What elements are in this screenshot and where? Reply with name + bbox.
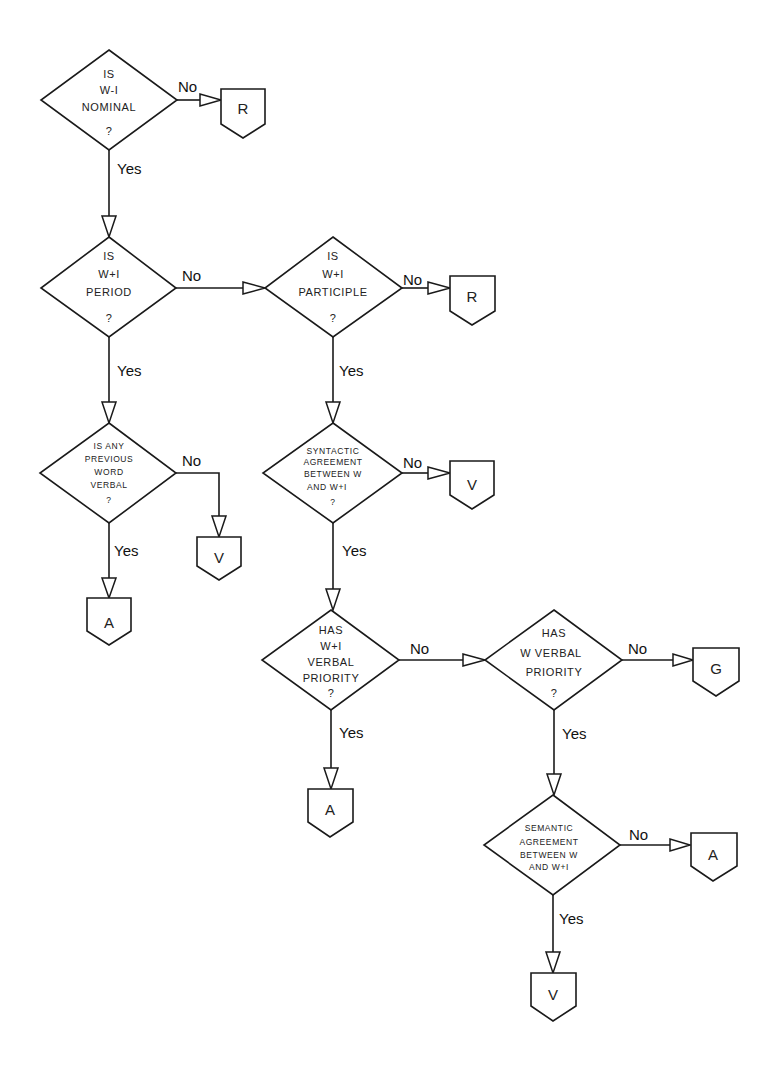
terminal-v: V [197,537,241,580]
arrow-down-icon [102,216,116,237]
svg-text:BETWEEN W: BETWEEN W [304,469,362,479]
svg-text:R: R [467,288,478,305]
arrow-right-icon [463,654,485,666]
edge-label-yes: Yes [114,542,138,559]
svg-text:NOMINAL: NOMINAL [82,101,136,113]
svg-text:VERBAL: VERBAL [90,480,127,490]
svg-text:AGREEMENT: AGREEMENT [303,457,362,467]
decision-semantic-agreement: SEMANTIC AGREEMENT BETWEEN W AND W+I [484,795,620,895]
svg-text:G: G [710,660,722,677]
svg-text:W+I: W+I [320,640,342,652]
edge-label-no: No [629,826,648,843]
svg-text:?: ? [551,687,558,699]
svg-text:?: ? [330,312,337,324]
decision-has-w+1-verbal-priority: HAS W+I VERBAL PRIORITY ? [262,610,399,710]
terminal-v: V [531,973,576,1021]
edge-label-yes: Yes [339,362,363,379]
svg-text:PRIORITY: PRIORITY [303,672,360,684]
arrow-right-icon [428,282,450,294]
svg-text:PRIORITY: PRIORITY [526,666,583,678]
arrow-down-icon [547,774,561,795]
flowchart-canvas: No Yes No Yes No Yes No Yes No Yes No Ye… [0,0,780,1066]
edge-label-no: No [403,454,422,471]
svg-text:SEMANTIC: SEMANTIC [525,823,574,833]
svg-text:A: A [708,846,718,863]
edge-label-no: No [182,267,201,284]
edge-label-yes: Yes [339,724,363,741]
svg-text:?: ? [328,687,335,699]
edge-label-yes: Yes [117,160,141,177]
decision-syntactic-agreement: SYNTACTIC AGREEMENT BETWEEN W AND W+I ? [263,423,402,523]
edge-label-yes: Yes [562,725,586,742]
terminal-r: R [221,89,265,138]
arrow-right-icon [673,654,693,666]
svg-text:HAS: HAS [319,624,343,636]
terminal-a: A [87,598,131,645]
edge-label-no: No [178,78,197,95]
edge-label-no: No [410,640,429,657]
edge-label-yes: Yes [342,542,366,559]
svg-text:?: ? [106,312,113,324]
svg-text:PREVIOUS: PREVIOUS [85,454,134,464]
arrow-down-icon [324,768,338,789]
decision-is-any-previous-word-verbal: IS ANY PREVIOUS WORD VERBAL ? [40,423,176,523]
svg-text:?: ? [106,125,113,137]
svg-text:VERBAL: VERBAL [307,656,354,668]
svg-text:HAS: HAS [542,627,566,639]
arrow-right-icon [200,94,221,106]
arrow-down-icon [546,952,560,973]
arrow-down-icon [102,402,116,423]
arrow-right-icon [243,282,265,294]
decision-is-w+1-period: IS W+I PERIOD ? [41,237,176,337]
svg-text:V: V [467,476,477,493]
edge-labels: No Yes No Yes No Yes No Yes No Yes No Ye… [114,78,648,927]
svg-text:BETWEEN W: BETWEEN W [520,850,578,860]
svg-text:PARTICIPLE: PARTICIPLE [298,286,367,298]
svg-text:IS ANY: IS ANY [93,441,124,451]
svg-text:?: ? [330,497,335,507]
edge-label-no: No [403,271,422,288]
terminal-v: V [450,461,494,509]
svg-text:W-I: W-I [100,84,119,96]
decision-is-w+1-participle: IS W+I PARTICIPLE ? [265,237,402,337]
arrow-down-icon [326,402,340,423]
svg-text:A: A [325,801,335,818]
svg-text:W+I: W+I [322,268,344,280]
svg-text:AND W+I: AND W+I [307,482,347,492]
arrow-right-icon [670,839,690,851]
svg-text:IS: IS [103,68,115,80]
svg-text:IS: IS [327,250,339,262]
edge-label-no: No [182,452,201,469]
edge-label-yes: Yes [117,362,141,379]
arrow-right-icon [428,467,450,479]
svg-text:PERIOD: PERIOD [86,286,132,298]
svg-text:V: V [548,986,558,1003]
decision-has-w-verbal-priority: HAS W VERBAL PRIORITY ? [485,610,622,710]
terminal-r: R [450,276,495,325]
svg-text:AND W+I: AND W+I [529,862,569,872]
svg-text:SYNTACTIC: SYNTACTIC [307,446,360,456]
arrow-down-icon [326,589,340,610]
terminal-g: G [693,648,739,696]
svg-text:R: R [238,100,249,117]
edge-label-yes: Yes [559,910,583,927]
svg-text:A: A [104,614,114,631]
edge-label-no: No [628,640,647,657]
arrow-down-icon [212,516,226,537]
svg-text:V: V [214,549,224,566]
arrow-down-icon [102,578,116,598]
svg-text:W+I: W+I [98,268,120,280]
svg-text:?: ? [106,495,111,505]
svg-text:WORD: WORD [94,467,123,477]
svg-text:W VERBAL: W VERBAL [520,647,582,659]
svg-text:AGREEMENT: AGREEMENT [519,837,578,847]
terminal-a: A [308,789,353,837]
decision-is-w-1-nominal: IS W-I NOMINAL ? [41,50,177,150]
terminal-a: A [691,833,737,881]
svg-text:IS: IS [103,250,115,262]
